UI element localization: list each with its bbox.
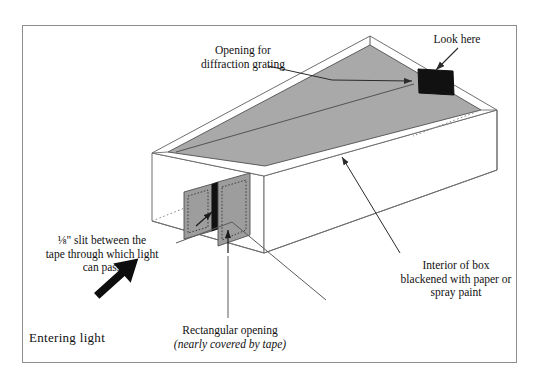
diffraction-grating-opening: [418, 69, 454, 95]
figure-canvas: Opening for diffraction grating Look her…: [0, 0, 537, 380]
slit-opening: [212, 182, 218, 231]
label-look-here-text: Look here: [434, 33, 481, 45]
label-slit: ⅛" slit between the tape through which l…: [26, 234, 178, 275]
label-rect-line2: (nearly covered by tape): [174, 338, 286, 350]
label-interior-line2: blackened with paper or: [401, 273, 512, 285]
label-slit-line1: ⅛" slit between the: [58, 234, 146, 246]
label-look-here: Look here: [414, 33, 500, 47]
label-interior-line1: Interior of box: [422, 259, 489, 271]
tape-piece-right: [218, 173, 250, 246]
label-interior: Interior of box blackened with paper or …: [388, 259, 524, 300]
label-entering-light-text: Entering light: [29, 330, 105, 345]
label-slit-line3: can pass: [83, 261, 122, 273]
label-rectangular-opening: Rectangular opening (nearly covered by t…: [152, 324, 308, 351]
label-slit-line2: tape through which light: [46, 248, 159, 260]
label-grating-line2: diffraction grating: [201, 58, 285, 70]
label-grating-line1: Opening for: [215, 44, 271, 56]
look-here-arrow: [436, 48, 458, 70]
label-entering-light: Entering light: [29, 330, 149, 345]
label-grating: Opening for diffraction grating: [176, 44, 310, 71]
label-rect-line1: Rectangular opening: [182, 324, 277, 336]
label-interior-line3: spray paint: [431, 286, 482, 298]
